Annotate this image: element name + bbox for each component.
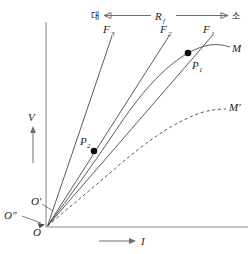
load-line-f2-label: F [159,23,167,35]
operating-point-p1-label: P [191,59,199,71]
operating-point-p1 [185,50,192,57]
load-line-f3-label: F [102,23,110,35]
i-axis-label: I [140,235,146,247]
operating-point-p2-subscript: 2 [87,142,91,150]
curve-m-prime [48,109,227,226]
v-axis-indicator [30,126,36,163]
curve-m-label: M [231,42,242,54]
operating-point-p1-subscript: 1 [199,66,203,74]
load-line-f3 [48,36,113,226]
load-line-f2-subscript: 2 [168,30,172,38]
load-line-f3-subscript: 3 [110,30,115,38]
v-axis-label: V [28,111,36,123]
v-arrow-head-icon [30,126,36,133]
operating-point-p2-label: P [79,135,87,147]
load-line-f1-label: F [202,23,210,35]
origin-o-prime-label: O′ [31,195,42,207]
iv-characteristic-diagram: R f 대 소 V I F 3 F 2 F 1 M M′ P 1 P 2 O O… [0,0,251,254]
rf-left-end-label: 대 [91,11,99,21]
i-arrow-head-icon [129,238,136,244]
load-line-f1-subscript: 1 [211,30,215,38]
origin-o-prime-leader [42,204,53,211]
origin-o-double-prime-leader-shaft [22,216,41,223]
load-line-f1 [48,36,213,226]
rf-scale-arrow [104,13,228,19]
curve-m [48,45,231,226]
rf-right-end-label: 소 [232,11,240,21]
origin-o-double-prime-label: O″ [4,209,17,221]
i-axis-indicator [99,238,136,244]
rf-label: R [154,10,162,22]
figure-container: R f 대 소 V I F 3 F 2 F 1 M M′ P 1 P 2 O O… [0,0,251,254]
curve-m-prime-label: M′ [228,101,241,113]
load-line-f2 [48,36,170,226]
operating-point-p2 [91,148,98,155]
